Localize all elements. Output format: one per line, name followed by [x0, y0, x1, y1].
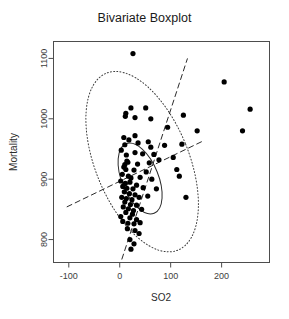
chart-title-group: Bivariate Boxplot — [98, 11, 192, 25]
x-tick-label: 0 — [117, 271, 122, 281]
data-point — [120, 172, 125, 177]
data-point — [156, 157, 161, 162]
data-point — [120, 219, 125, 224]
data-point — [127, 180, 132, 185]
data-point — [181, 113, 186, 118]
data-point — [132, 133, 137, 138]
bivariate-boxplot-figure: Bivariate Boxplot 80090010001100 -100010… — [0, 0, 289, 319]
scatter-points-group — [118, 51, 253, 252]
data-point — [140, 151, 145, 156]
x-axis-label: SO2 — [151, 292, 171, 303]
data-point — [118, 178, 123, 183]
data-point — [128, 105, 133, 110]
x-tick-label: -100 — [60, 271, 78, 281]
data-point — [147, 160, 152, 165]
data-point — [129, 197, 134, 202]
data-point — [123, 114, 128, 119]
data-point — [122, 142, 127, 147]
ellipses-group — [63, 56, 221, 268]
data-point — [139, 207, 144, 212]
data-point — [123, 210, 128, 215]
data-point — [122, 200, 127, 205]
plot-border — [54, 42, 270, 263]
y-tick-label: 1100 — [39, 49, 49, 68]
data-point — [149, 177, 154, 182]
y-axis-ticks: 80090010001100 — [39, 49, 54, 247]
page-title: Bivariate Boxplot — [98, 11, 192, 25]
data-point — [144, 169, 149, 174]
y-axis-label: Mortality — [8, 133, 19, 171]
data-point — [222, 79, 227, 84]
data-point — [126, 137, 131, 142]
data-point — [177, 174, 182, 179]
data-point — [146, 139, 151, 144]
data-point — [143, 105, 148, 110]
plot-frame — [54, 42, 270, 263]
data-point — [127, 215, 132, 220]
data-point — [174, 167, 179, 172]
data-point — [195, 128, 200, 133]
data-point — [130, 186, 135, 191]
x-axis-ticks: -1000100200 — [60, 263, 229, 281]
data-point — [119, 195, 124, 200]
data-point — [131, 241, 136, 246]
data-point — [171, 155, 176, 160]
y-tick-label: 900 — [39, 172, 49, 187]
data-point — [121, 135, 126, 140]
data-point — [145, 193, 150, 198]
y-tick-label: 1000 — [39, 109, 49, 129]
data-point — [128, 247, 133, 252]
data-point — [125, 226, 130, 231]
axis-titles-group: SO2 Mortality — [8, 133, 171, 303]
data-point — [131, 221, 136, 226]
data-point — [127, 237, 132, 242]
data-point — [134, 203, 139, 208]
data-point — [130, 51, 135, 56]
data-point — [148, 116, 153, 121]
data-point — [124, 152, 129, 157]
data-point — [136, 231, 141, 236]
plot-canvas: Bivariate Boxplot 80090010001100 -100010… — [0, 0, 289, 319]
data-point — [162, 143, 167, 148]
data-point — [240, 128, 245, 133]
data-point — [121, 204, 126, 209]
data-point — [135, 140, 140, 145]
data-point — [118, 214, 123, 219]
outer-fence-ellipse — [63, 56, 221, 268]
x-tick-label: 100 — [163, 271, 178, 281]
data-point — [248, 107, 253, 112]
data-point — [132, 115, 137, 120]
regression-line-major-axis — [122, 58, 188, 259]
data-point — [148, 145, 153, 150]
data-point — [183, 195, 188, 200]
data-point — [119, 148, 124, 153]
data-point — [132, 150, 137, 155]
data-point — [125, 221, 130, 226]
data-point — [127, 191, 132, 196]
data-point — [154, 186, 159, 191]
data-point — [122, 189, 127, 194]
data-point — [135, 161, 140, 166]
x-tick-label: 200 — [214, 271, 229, 281]
data-point — [165, 125, 170, 130]
data-point — [179, 142, 184, 147]
data-point — [141, 185, 146, 190]
data-point — [123, 167, 128, 172]
data-point — [138, 220, 143, 225]
data-point — [131, 168, 136, 173]
data-point — [151, 152, 156, 157]
data-point — [136, 195, 141, 200]
y-tick-label: 800 — [39, 232, 49, 247]
data-point — [138, 175, 143, 180]
